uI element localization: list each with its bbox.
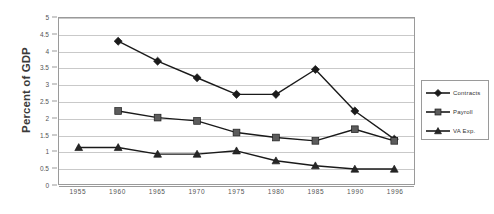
x-axis-tick-label: 1985 [307, 188, 324, 195]
x-axis-tick-label: 1990 [347, 188, 364, 195]
data-point [272, 90, 280, 98]
data-point [233, 129, 240, 136]
square-marker-icon [425, 106, 451, 118]
x-axis-tick-label: 1965 [149, 188, 166, 195]
data-point [115, 108, 122, 115]
y-axis-tick-label: 0.5 [40, 165, 49, 172]
legend-item-va-exp[interactable]: VA Exp. [425, 124, 475, 138]
y-axis-tick-label: 1.5 [40, 131, 49, 138]
y-axis-tick-label: 4.5 [40, 30, 49, 37]
legend-item-contracts[interactable]: Contracts [425, 86, 480, 100]
data-point [232, 90, 240, 98]
y-axis-tick-mark [52, 151, 57, 152]
x-axis-tick-label: 1955 [69, 188, 86, 195]
y-axis-tick-mark [52, 17, 57, 18]
data-point [312, 137, 319, 144]
y-axis-tick-label: 3 [45, 81, 49, 88]
chart-container: Percent of GDP 00.511.522.533.544.55 195… [0, 0, 494, 214]
data-point [194, 118, 201, 125]
y-axis-tick-label: 3.5 [40, 64, 49, 71]
series-va-exp [75, 144, 398, 173]
y-axis-tick-mark [52, 101, 57, 102]
triangle-marker-icon [425, 125, 451, 137]
x-axis-tick-label: 1975 [228, 188, 245, 195]
diamond-marker-icon [425, 87, 451, 99]
y-axis-tick-mark [52, 134, 57, 135]
data-point [114, 37, 122, 45]
y-axis-tick-mark [52, 84, 57, 85]
y-axis-tick-label: 2 [45, 114, 49, 121]
x-axis-tick-label: 1980 [268, 188, 285, 195]
data-point [193, 74, 201, 82]
data-point [273, 134, 280, 141]
data-point [391, 137, 398, 144]
x-axis-tick-label: 1996 [387, 188, 404, 195]
legend-label: Payroll [453, 109, 473, 115]
series-line [118, 41, 394, 139]
legend-label: Contracts [453, 90, 480, 96]
plot-area [58, 17, 415, 185]
chart-legend: ContractsPayrollVA Exp. [421, 80, 489, 140]
legend-item-payroll[interactable]: Payroll [425, 105, 473, 119]
x-axis-tick-labels: 195519601965197019751980198519901996 [58, 188, 415, 204]
legend-label: VA Exp. [453, 128, 475, 134]
y-axis-tick-label: 2.5 [40, 98, 49, 105]
y-axis-tick-mark [52, 67, 57, 68]
data-point [351, 126, 358, 133]
y-axis-tick-label: 0 [45, 182, 49, 189]
y-axis-tick-mark [52, 117, 57, 118]
y-axis-tick-mark [52, 33, 57, 34]
y-axis-tick-mark [52, 168, 57, 169]
y-axis-tick-label: 4 [45, 47, 49, 54]
y-axis-tick-mark [52, 50, 57, 51]
data-point [154, 114, 161, 121]
gridline [59, 186, 414, 187]
data-point [154, 57, 162, 65]
series-layer [59, 18, 414, 184]
y-axis-tick-label: 1 [45, 148, 49, 155]
y-axis-tick-mark [52, 185, 57, 186]
y-axis-tick-labels: 00.511.522.533.544.55 [0, 17, 54, 185]
x-axis-tick-label: 1960 [109, 188, 126, 195]
y-axis-tick-label: 5 [45, 14, 49, 21]
x-axis-tick-label: 1970 [188, 188, 205, 195]
